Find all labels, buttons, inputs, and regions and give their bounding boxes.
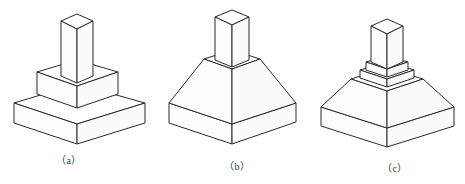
figure-b-frustum-pedestal <box>155 0 310 150</box>
column-right-face <box>77 21 93 83</box>
figure-b-drawing <box>155 0 310 150</box>
caption-figure-b: （b） <box>224 158 251 173</box>
figure-a-drawing <box>0 0 155 150</box>
column-left-face <box>61 21 77 83</box>
caption-figure-c: （c） <box>382 160 408 175</box>
figure-plate: （a） （b） （c） <box>0 0 465 184</box>
column-left-face <box>215 17 232 67</box>
figure-c-drawing <box>310 0 465 150</box>
square-prism-column <box>371 19 403 69</box>
column-left-face <box>371 26 387 69</box>
figure-a-stepped-pedestal <box>0 0 155 150</box>
figure-c-collared-pedestal <box>310 0 465 150</box>
column-right-face <box>387 26 403 69</box>
caption-figure-a: （a） <box>56 152 82 167</box>
column-right-face <box>232 17 249 67</box>
square-prism-column <box>61 14 93 83</box>
square-prism-column <box>215 10 249 67</box>
